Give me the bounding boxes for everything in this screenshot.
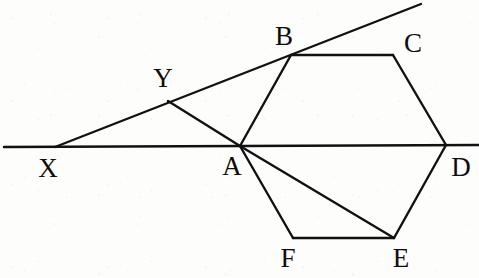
vertex-label-c: C bbox=[404, 30, 422, 57]
vertex-label-y: Y bbox=[153, 65, 173, 92]
vertex-label-e: E bbox=[393, 245, 410, 272]
vertex-x bbox=[54, 146, 56, 148]
segment-YA bbox=[168, 101, 240, 146]
vertex-y bbox=[167, 100, 169, 102]
chord-AE bbox=[240, 146, 394, 238]
hexagon-edge-AB bbox=[240, 55, 291, 146]
hexagon-edge-FA bbox=[240, 146, 293, 238]
vertex-label-d: D bbox=[451, 154, 471, 181]
vertex-label-f: F bbox=[280, 245, 295, 272]
ray-XB-extended bbox=[55, 4, 421, 147]
vertex-b bbox=[290, 54, 292, 56]
hexagon-edge-CD bbox=[393, 55, 446, 145]
vertex-label-b: B bbox=[275, 23, 293, 50]
vertex-label-x: X bbox=[38, 155, 58, 182]
hexagon-edge-DE bbox=[394, 145, 446, 238]
vertex-a bbox=[239, 145, 241, 147]
vertex-label-a: A bbox=[222, 153, 242, 180]
vertex-e bbox=[393, 237, 395, 239]
vertex-f bbox=[292, 237, 294, 239]
geometry-figure: XYABCDEF bbox=[0, 0, 479, 278]
vertex-c bbox=[392, 54, 394, 56]
vertex-d bbox=[445, 144, 447, 146]
